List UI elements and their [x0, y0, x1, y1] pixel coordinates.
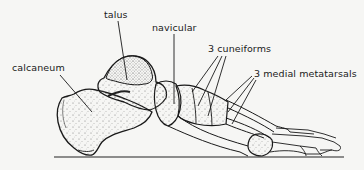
metatarsal-leader-1: [226, 76, 252, 100]
label-metatarsals: 3 medial metatarsals: [254, 69, 357, 79]
label-cuneiforms: 3 cuneiforms: [208, 44, 271, 54]
phalanges: [270, 128, 341, 156]
cuneiform-leader-1: [192, 56, 218, 92]
label-calcaneum: calcaneum: [12, 63, 65, 73]
label-talus: talus: [104, 10, 128, 20]
label-navicular: navicular: [152, 23, 197, 33]
foot-bone-diagram: talus navicular 3 cuneiforms 3 medial me…: [0, 0, 364, 170]
